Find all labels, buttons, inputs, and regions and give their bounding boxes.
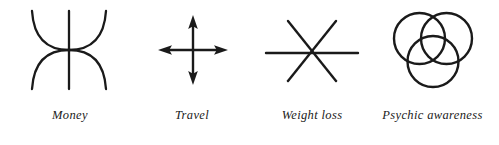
travel-glyph-container (128, 0, 256, 100)
psychic-awareness-glyph-container (366, 0, 499, 100)
travel-four-way-arrow-icon (156, 13, 230, 87)
money-glyph-container (0, 0, 140, 100)
symbol-item-money: Money (0, 0, 140, 145)
symbol-label-weight-loss: Weight loss (282, 108, 343, 122)
symbol-label-money: Money (52, 108, 88, 122)
symbol-item-weight-loss: Weight loss (246, 0, 378, 145)
weight-loss-glyph-container (246, 0, 378, 100)
symbol-item-travel: Travel (128, 0, 256, 145)
symbol-label-travel: Travel (175, 108, 209, 122)
symbol-item-psychic-awareness: Psychic awareness (366, 0, 499, 145)
psychic-awareness-three-circles-icon (391, 10, 475, 90)
weight-loss-six-point-asterisk-icon (263, 13, 361, 87)
money-symbol-icon (21, 8, 117, 92)
symbol-label-psychic-awareness: Psychic awareness (382, 108, 482, 122)
symbol-chart: Money Travel (0, 0, 499, 145)
